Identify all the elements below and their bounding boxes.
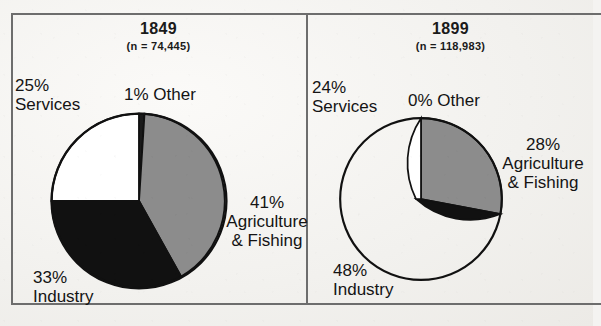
label-industry-1899: 48% Industry bbox=[333, 261, 393, 299]
pie-slice-agriculture-1899 bbox=[421, 118, 502, 214]
panel-title-1849: 1849 (n = 74,445) bbox=[11, 20, 306, 53]
panel-1899: 1899 (n = 118,983) 24% Services 0% Other… bbox=[308, 13, 593, 305]
pie-chart-1899 bbox=[335, 113, 507, 285]
pie-slice-services-1899 bbox=[407, 118, 421, 199]
label-agriculture-1849: 41% Agriculture & Fishing bbox=[219, 193, 315, 250]
panel-sample-size-1849: (n = 74,445) bbox=[11, 39, 306, 53]
panel-year-1899: 1899 bbox=[308, 20, 593, 38]
label-services-1849: 25% Services bbox=[15, 76, 80, 114]
label-services-1899: 24% Services bbox=[312, 78, 377, 116]
panel-title-1899: 1899 (n = 118,983) bbox=[308, 20, 593, 53]
label-agriculture-1899: 28% Agriculture & Fishing bbox=[493, 135, 593, 192]
panel-sample-size-1899: (n = 118,983) bbox=[308, 39, 593, 53]
label-other-1899: 0% Other bbox=[408, 91, 480, 110]
label-industry-1849: 33% Industry bbox=[33, 268, 93, 306]
panel-year-1849: 1849 bbox=[11, 20, 306, 38]
pie-slice-services-1849 bbox=[52, 114, 139, 201]
label-other-1849: 1% Other bbox=[124, 85, 196, 104]
panel-1849: 1849 (n = 74,445) 25% Services 1% Other … bbox=[11, 13, 306, 305]
pie-chart-1849 bbox=[46, 108, 232, 294]
